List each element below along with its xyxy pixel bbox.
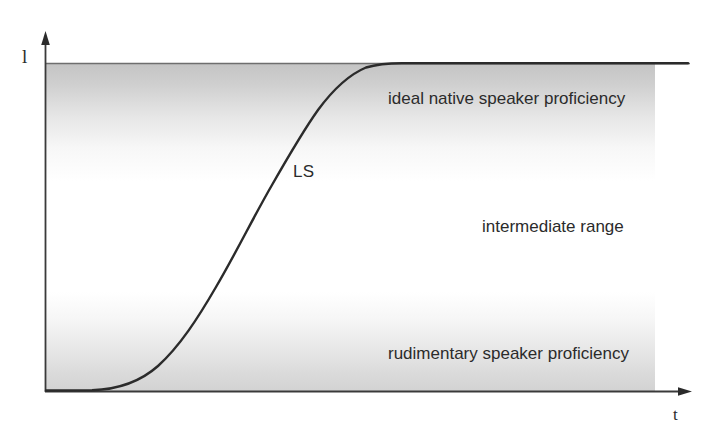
plot-canvas bbox=[0, 0, 717, 432]
x-axis-arrow-icon bbox=[678, 387, 692, 396]
y-axis-label: l bbox=[22, 47, 27, 66]
x-axis-label: t bbox=[673, 406, 678, 423]
y-axis-arrow-icon bbox=[41, 31, 50, 45]
ls-curve-label: LS bbox=[293, 163, 314, 180]
band-label-ideal-native-speaker-proficiency: ideal native speaker proficiency bbox=[388, 90, 625, 107]
band-shade-bottom bbox=[46, 292, 655, 392]
band-label-intermediate-range: intermediate range bbox=[482, 218, 624, 235]
band-shade-top bbox=[46, 63, 655, 181]
band-label-rudimentary-speaker-proficiency: rudimentary speaker proficiency bbox=[388, 345, 629, 362]
language-proficiency-figure: l t LS ideal native speaker proficiency … bbox=[0, 0, 717, 432]
